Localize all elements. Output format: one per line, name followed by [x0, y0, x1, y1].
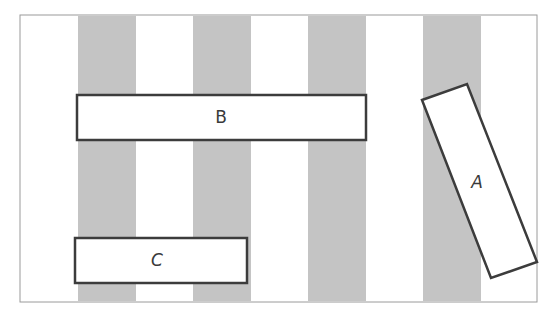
box-c: C: [75, 238, 247, 283]
box-c-label: C: [151, 250, 163, 270]
diagram-canvas: B C A: [0, 0, 553, 316]
box-b-label: B: [215, 107, 227, 127]
stripe: [308, 16, 366, 301]
box-b: B: [77, 95, 366, 140]
box-a-label: A: [470, 172, 483, 192]
